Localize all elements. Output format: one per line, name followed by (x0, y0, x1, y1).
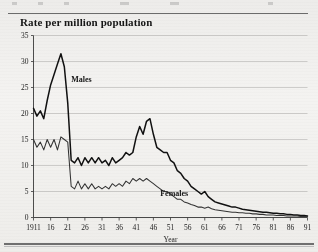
footer-rule-shadow (4, 246, 314, 247)
y-tick-label: 30 (21, 57, 29, 66)
y-tick-label: 10 (21, 161, 29, 170)
figure-panel: Rate per million population 051015202530… (0, 0, 318, 252)
x-tick-label: 51 (167, 223, 175, 232)
y-tick-label: 25 (21, 83, 29, 92)
x-tick-label: 71 (235, 223, 243, 232)
x-tick-label: 26 (81, 223, 89, 232)
x-tick-label: 61 (201, 223, 209, 232)
series-line-females (34, 137, 308, 217)
y-tick-label: 15 (21, 135, 29, 144)
x-tick-label: 56 (184, 223, 192, 232)
x-tick-label: 46 (150, 223, 158, 232)
x-tick-label: 31 (98, 223, 106, 232)
series-label-females: Females (160, 189, 188, 198)
x-tick-label: 76 (252, 223, 260, 232)
y-tick-label: 20 (21, 109, 29, 118)
y-tick-label: 5 (25, 187, 29, 196)
x-tick-label: 36 (115, 223, 123, 232)
x-tick-label: 91 (304, 223, 312, 232)
x-tick-label: 1911 (26, 223, 41, 232)
line-chart: 05101520253035 1911162126313641465156616… (0, 0, 318, 252)
y-tick-label: 0 (25, 213, 29, 222)
plot-area: 05101520253035 1911162126313641465156616… (0, 0, 318, 252)
footer-rule (4, 243, 314, 245)
x-tick-label: 16 (47, 223, 55, 232)
x-tick-label: 86 (287, 223, 295, 232)
x-tick-group: 191116212631364146515661667176818691 (26, 218, 311, 232)
y-tick-label: 35 (21, 31, 29, 40)
x-tick-label: 41 (133, 223, 141, 232)
x-tick-label: 21 (64, 223, 72, 232)
x-tick-label: 66 (218, 223, 226, 232)
y-tick-group: 05101520253035 (21, 31, 34, 222)
series-label-males: Males (71, 75, 91, 84)
x-tick-label: 81 (270, 223, 278, 232)
